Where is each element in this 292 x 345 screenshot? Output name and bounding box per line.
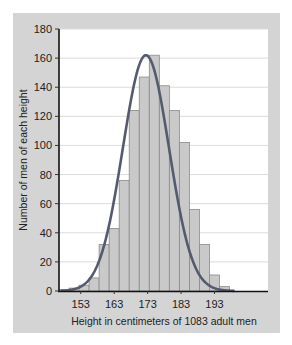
x-tick-label: 183 bbox=[172, 298, 190, 310]
histogram-bar bbox=[99, 244, 109, 291]
histogram-bar bbox=[129, 111, 139, 291]
y-tick-label: 120 bbox=[34, 110, 52, 122]
histogram-bar bbox=[189, 209, 199, 291]
histogram-bar bbox=[119, 180, 129, 291]
x-tick-labels: 153163173183193 bbox=[72, 291, 224, 310]
y-tick-label: 60 bbox=[40, 198, 52, 210]
x-tick-label: 193 bbox=[205, 298, 223, 310]
y-tick-label: 0 bbox=[46, 285, 52, 297]
x-tick-label: 173 bbox=[138, 298, 156, 310]
y-tick-label: 20 bbox=[40, 256, 52, 268]
x-axis-label: Height in centimeters of 1083 adult men bbox=[71, 315, 257, 327]
histogram-bar bbox=[89, 278, 99, 291]
y-tick-label: 100 bbox=[34, 139, 52, 151]
y-tick-label: 80 bbox=[40, 169, 52, 181]
y-tick-label: 180 bbox=[34, 23, 52, 35]
histogram-chart: 020406080100120140160180 153163173183193… bbox=[0, 0, 292, 345]
histogram-bar bbox=[139, 77, 149, 291]
y-axis-label: Number of men of each height bbox=[17, 89, 29, 230]
y-tick-labels: 020406080100120140160180 bbox=[34, 23, 59, 297]
y-tick-label: 160 bbox=[34, 52, 52, 64]
y-tick-label: 140 bbox=[34, 81, 52, 93]
y-tick-label: 40 bbox=[40, 227, 52, 239]
histogram-bar bbox=[109, 228, 119, 291]
x-tick-label: 163 bbox=[105, 298, 123, 310]
x-tick-label: 153 bbox=[72, 298, 90, 310]
